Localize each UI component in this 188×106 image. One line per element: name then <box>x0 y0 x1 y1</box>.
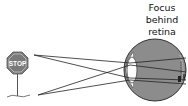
stop-sign-text: STOP <box>9 60 27 67</box>
eyeball <box>124 39 186 101</box>
stop-sign-icon: STOP <box>7 52 30 97</box>
hyperopia-diagram: STOP <box>0 0 188 106</box>
